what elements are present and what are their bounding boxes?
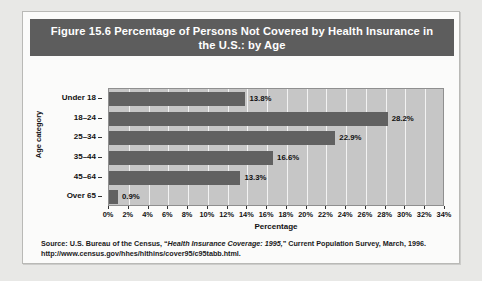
x-axis-tick-label: 30% [397,210,412,219]
x-axis-tick-mark [325,206,326,209]
figure-title: Figure 15.6 Percentage of Persons Not Co… [30,24,454,52]
source-url: http://www.census.gov/hhes/hlthins/cover… [41,249,445,259]
y-axis-tick-label: Under 18 [62,92,96,104]
x-axis-tick-label: 12% [219,210,234,219]
bar-value-label: 28.2% [392,112,414,126]
x-axis-tick-mark [306,206,307,209]
x-axis-tick-label: 34% [437,210,452,219]
y-axis-title-label: Age category [35,110,44,158]
source-block: Source: U.S. Bureau of the Census, “Heal… [41,239,445,258]
x-axis-tick-mark [167,206,168,209]
gridline [386,89,387,205]
x-axis-tick-mark [148,206,149,209]
x-axis-tick-mark [227,206,228,209]
bar-row: 16.6% [109,151,444,165]
x-axis-tick-label: 10% [199,210,214,219]
y-axis-tick-mark [98,196,102,197]
x-axis-tick-label: 28% [377,210,392,219]
y-axis-tick-label: 45–64 [74,171,96,183]
source-citation-line: Source: U.S. Bureau of the Census, “Heal… [41,239,445,249]
x-axis-tick-label: 0% [103,210,114,219]
gridline [287,89,288,205]
x-axis-tick-mark [385,206,386,209]
bar[interactable] [109,112,388,126]
y-axis-tick-label: 25–34 [74,131,96,143]
gridline [405,89,406,205]
bar-row: 28.2% [109,112,444,126]
x-axis-tick-mark [424,206,425,209]
y-axis-tick-labels: Under 1818–2425–3435–4445–64Over 65 [44,88,102,206]
x-axis-tick-mark [207,206,208,209]
bar-row: 13.3% [109,171,444,185]
source-suffix: ” Current Population Survey, March, 1996… [283,239,426,248]
source-prefix: Source: U.S. Bureau of the Census, “ [41,239,168,248]
x-axis-tick-mark [266,206,267,209]
gridline [346,89,347,205]
x-axis: 0%2%4%6%8%10%12%14%16%18%20%22%24%26%28%… [108,206,444,222]
x-axis-tick-label: 20% [298,210,313,219]
gridline [188,89,189,205]
chart-region: Age category Under 1818–2425–3435–4445–6… [30,62,454,214]
y-axis-tick-label: 35–44 [74,151,96,163]
y-axis-tick-mark [98,177,102,178]
gridline [208,89,209,205]
gridline [267,89,268,205]
x-axis-tick-mark [187,206,188,209]
bar-row: 13.8% [109,92,444,106]
x-axis-tick-label: 14% [239,210,254,219]
y-axis-tick-label: Over 65 [67,190,96,202]
x-axis-tick-label: 16% [259,210,274,219]
bar[interactable] [109,131,335,145]
gridline [425,89,426,205]
bar-value-label: 13.3% [244,171,266,185]
bar-value-label: 13.8% [249,92,271,106]
x-axis-tick-label: 24% [338,210,353,219]
bar[interactable] [109,92,245,106]
x-axis-tick-mark [128,206,129,209]
x-axis-tick-label: 6% [162,210,173,219]
gridline [307,89,308,205]
gridline [366,89,367,205]
x-axis-tick-mark [444,206,445,209]
y-axis-tick-label: 18–24 [74,112,96,124]
figure-title-banner: Figure 15.6 Percentage of Persons Not Co… [30,19,454,56]
gridline [168,89,169,205]
y-axis-tick-mark [98,157,102,158]
gridline [326,89,327,205]
bar-row: 0.9% [109,190,444,204]
x-axis-tick-mark [286,206,287,209]
x-axis-tick-label: 8% [182,210,193,219]
plot-area: 13.8%28.2%22.9%16.6%13.3%0.9% [108,88,444,206]
bar[interactable] [109,151,273,165]
bar-row: 22.9% [109,131,444,145]
x-axis-title: Percentage [108,222,444,231]
y-axis-tick-mark [98,137,102,138]
bar-value-label: 0.9% [122,190,140,204]
x-axis-tick-label: 2% [122,210,133,219]
x-axis-tick-mark [345,206,346,209]
figure-panel: Figure 15.6 Percentage of Persons Not Co… [22,11,460,264]
gridline [228,89,229,205]
x-axis-tick-label: 4% [142,210,153,219]
gridline [129,89,130,205]
source-publication-title: Health Insurance Coverage: 1995, [168,239,283,248]
y-axis-tick-mark [98,118,102,119]
x-axis-tick-label: 18% [278,210,293,219]
x-axis-tick-label: 26% [358,210,373,219]
bar-value-label: 22.9% [339,131,361,145]
y-axis-tick-mark [98,98,102,99]
x-axis-tick-mark [108,206,109,209]
x-axis-tick-mark [246,206,247,209]
bar-value-label: 16.6% [277,151,299,165]
x-axis-tick-mark [365,206,366,209]
x-axis-tick-label: 22% [318,210,333,219]
x-axis-tick-label: 32% [417,210,432,219]
x-axis-tick-mark [404,206,405,209]
bar[interactable] [109,171,240,185]
gridline [149,89,150,205]
gridline [247,89,248,205]
bar[interactable] [109,190,118,204]
